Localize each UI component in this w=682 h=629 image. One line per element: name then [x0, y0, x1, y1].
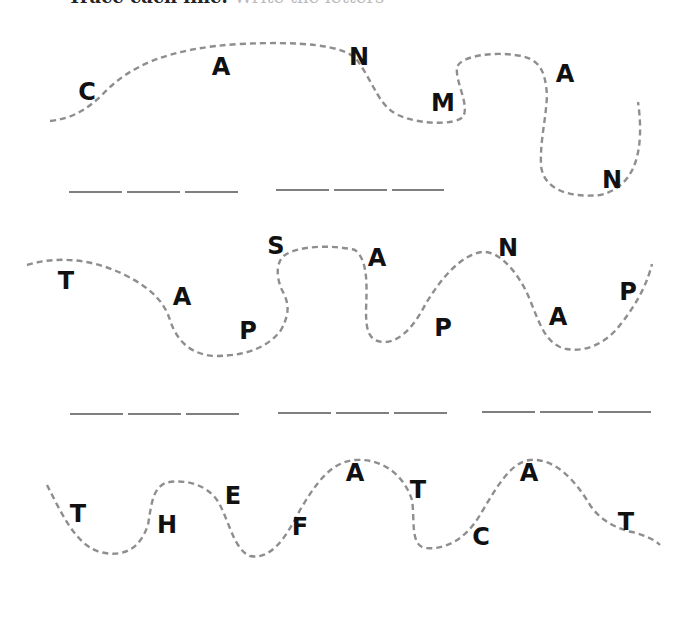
letter-label: M: [431, 91, 455, 115]
trace-line-row-1[interactable]: [50, 43, 640, 196]
worksheet-canvas: [0, 0, 682, 629]
letter-label: H: [157, 513, 177, 537]
letter-label: N: [498, 236, 518, 260]
letter-label: S: [267, 234, 284, 258]
letter-label: A: [520, 461, 539, 485]
letter-label: A: [346, 461, 365, 485]
letter-label: A: [212, 55, 231, 79]
letter-label: P: [434, 316, 452, 340]
answer-blanks-row-1: [69, 190, 444, 192]
letter-label: P: [619, 280, 637, 304]
letter-label: A: [549, 305, 568, 329]
letter-label: C: [78, 80, 96, 104]
letter-label: T: [410, 478, 426, 502]
letter-label: T: [58, 269, 74, 293]
letter-label: A: [173, 285, 192, 309]
letter-label: A: [556, 62, 575, 86]
letter-label: F: [292, 515, 308, 539]
letter-label: T: [70, 502, 86, 526]
letter-label: C: [472, 525, 490, 549]
letter-label: P: [239, 319, 257, 343]
answer-blanks-row-2: [70, 412, 651, 414]
letter-label: T: [618, 510, 634, 534]
trace-line-row-2[interactable]: [27, 247, 652, 356]
letter-label: N: [602, 168, 622, 192]
letter-label: A: [368, 246, 387, 270]
letter-label: E: [225, 484, 241, 508]
letter-label: N: [349, 45, 369, 69]
